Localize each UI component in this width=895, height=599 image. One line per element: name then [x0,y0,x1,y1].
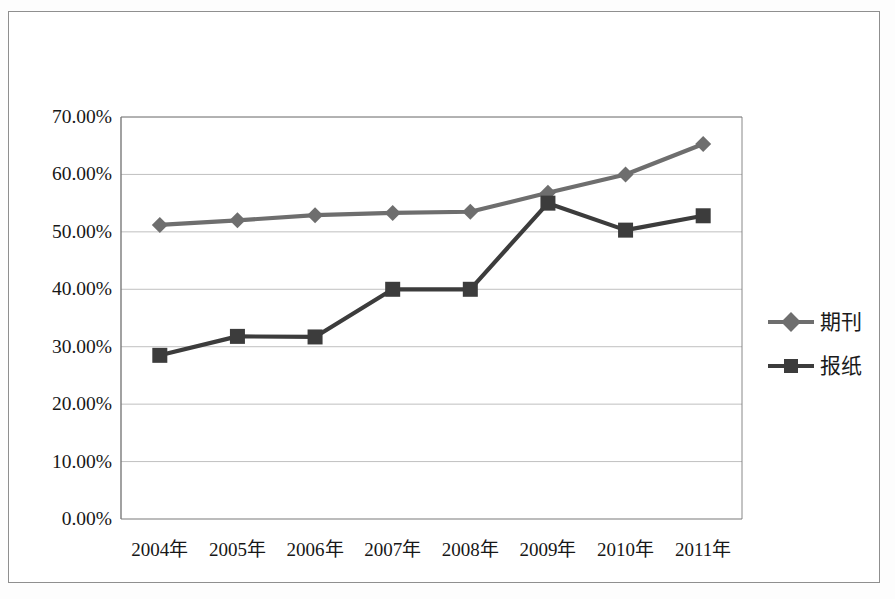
x-axis-tick-label: 2008年 [442,540,499,559]
legend-key-diamond-icon [768,313,814,331]
x-axis-tick-label: 2004年 [131,540,188,559]
legend-label-series-1: 报纸 [820,356,862,377]
x-axis-tick-labels: 2004年2005年2006年2007年2008年2009年2010年2011年 [0,0,895,599]
legend-label-series-0: 期刊 [820,312,862,333]
legend-key-square-icon [768,357,814,375]
x-axis-tick-label: 2010年 [597,540,654,559]
x-axis-tick-label: 2007年 [364,540,421,559]
legend-item-series-0: 期刊 [768,300,888,344]
screenshot-page: 70.00%60.00%50.00%40.00%30.00%20.00%10.0… [0,0,895,599]
chart-legend: 期刊 报纸 [768,300,888,388]
diamond-marker-icon [781,312,801,332]
square-marker-icon [784,359,798,373]
x-axis-tick-label: 2005年 [209,540,266,559]
x-axis-tick-label: 2009年 [519,540,576,559]
x-axis-tick-label: 2006年 [287,540,344,559]
legend-item-series-1: 报纸 [768,344,888,388]
x-axis-tick-label: 2011年 [675,540,731,559]
